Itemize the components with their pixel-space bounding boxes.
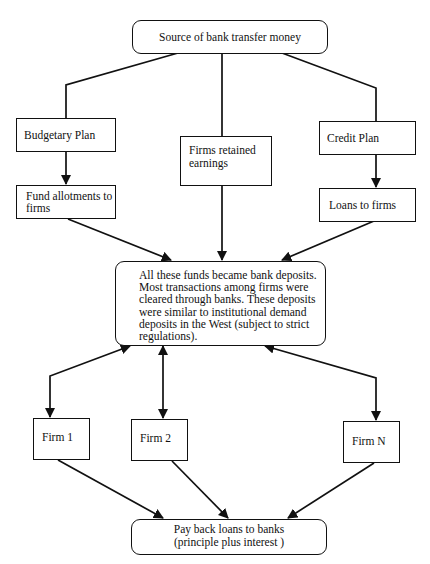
edge-loans-deposits	[282, 221, 374, 260]
edge-deposits-firm1	[50, 346, 130, 417]
node-label: Budgetary Plan	[24, 129, 95, 142]
node-label: Firm 2	[140, 432, 171, 445]
node-label: Firm N	[352, 435, 386, 448]
node-source-of-bank-transfer-money: Source of bank transfer money	[132, 20, 328, 54]
node-label: Source of bank transfer money	[159, 31, 301, 44]
edge-deposits-firmn	[265, 346, 376, 420]
node-fund-allotments-to-firms: Fund allotments to firms	[16, 185, 116, 219]
node-budgetary-plan: Budgetary Plan	[16, 118, 116, 152]
node-label-line1: Pay back loans to banks	[174, 523, 285, 536]
flow-diagram: Source of bank transfer money Budgetary …	[0, 0, 430, 564]
edge-firm2-payback	[172, 461, 228, 518]
edge-firmn-payback	[288, 463, 374, 518]
node-label: Credit Plan	[327, 132, 379, 145]
node-loans-to-firms: Loans to firms	[319, 188, 416, 222]
node-firm-n: Firm N	[343, 421, 400, 463]
edge-source-budgetary	[66, 53, 178, 118]
node-pay-back-loans: Pay back loans to banks (principle plus …	[131, 519, 327, 555]
node-label-line2: (principle plus interest )	[174, 536, 284, 549]
node-label: Firms retained earnings	[189, 144, 256, 169]
edge-firm1-payback	[58, 460, 163, 518]
node-firm-2: Firm 2	[131, 419, 188, 461]
node-firm-1: Firm 1	[33, 418, 90, 460]
node-label: All these funds became bank deposits. Mo…	[139, 269, 317, 343]
edge-source-credit	[282, 53, 376, 121]
node-label: Loans to firms	[329, 199, 396, 212]
edge-allotments-deposits	[68, 219, 171, 260]
node-credit-plan: Credit Plan	[319, 121, 416, 155]
node-firms-retained-earnings: Firms retained earnings	[180, 136, 272, 186]
node-label: Firm 1	[42, 431, 73, 444]
node-label: Fund allotments to firms	[26, 190, 112, 215]
node-bank-deposits: All these funds became bank deposits. Mo…	[115, 261, 326, 346]
